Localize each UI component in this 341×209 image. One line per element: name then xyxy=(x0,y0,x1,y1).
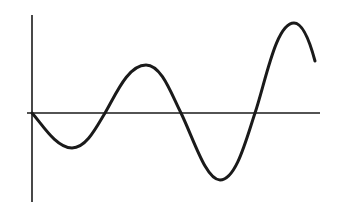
wave-diagram xyxy=(0,0,341,209)
diagram-svg xyxy=(0,0,341,209)
wave-curve xyxy=(32,23,315,180)
